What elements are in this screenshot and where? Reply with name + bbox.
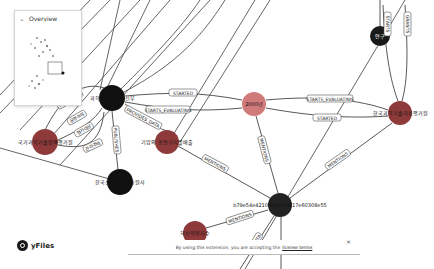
chevron-down-icon[interactable]: ⌄ — [15, 15, 29, 22]
license-notice: By using this extension, you are accepti… — [128, 240, 360, 255]
edge-label: GRANTS — [405, 15, 410, 34]
close-icon[interactable]: × — [346, 238, 351, 245]
yfiles-name: yFiles — [31, 242, 54, 250]
node-label-n6: 한국과학기술기획평가원 — [373, 110, 428, 117]
node-label-n9: 혁신역량지수 — [180, 230, 210, 237]
yfiles-logo-icon — [17, 240, 28, 251]
node-label-n7: 연구 — [375, 33, 385, 40]
node-label-n2: 국가과학기술정책평가원 — [18, 139, 73, 146]
license-terms-link[interactable]: license terms — [282, 245, 312, 250]
edge-label: STARTED — [173, 91, 194, 96]
overview-panel[interactable]: ⌄ Overview — [14, 10, 82, 106]
overview-minimap[interactable] — [17, 26, 79, 103]
nodes[interactable] — [32, 26, 412, 245]
node-label-n3: 기업의 조연구지를배출 — [141, 139, 193, 146]
node-label-n8: b79e54e4210f34487b217e60308e55 — [233, 202, 327, 208]
edge-label: STARTED — [317, 116, 338, 121]
overview-header[interactable]: ⌄ Overview — [15, 11, 81, 25]
edges — [45, 0, 407, 269]
license-text: By using this extension, you are accepti… — [176, 245, 280, 250]
node-label-n1: 과학기술정보통신부 — [90, 95, 135, 102]
edge-label: STARTS — [385, 16, 390, 33]
yfiles-branding[interactable]: yFiles — [17, 240, 54, 251]
edge-label: MENTIONS — [327, 151, 350, 169]
node-label-n5: 2000년 — [245, 101, 263, 107]
node-label-n4: 한국산업기술진흥원사 — [95, 179, 145, 186]
overview-title: Overview — [29, 15, 57, 22]
